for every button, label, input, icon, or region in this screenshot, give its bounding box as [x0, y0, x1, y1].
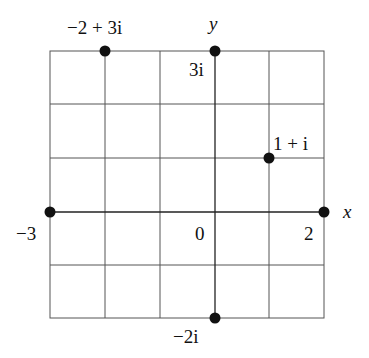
label-origin: 0 — [195, 223, 205, 244]
label-neg2-plus-3i: −2 + 3i — [67, 17, 122, 38]
label-2: 2 — [304, 223, 314, 244]
point-neg2-plus-3i — [100, 46, 111, 57]
complex-plane-diagram: y x −2 + 3i 3i 1 + i −3 0 2 −2i — [0, 0, 369, 358]
label-neg2i: −2i — [173, 326, 199, 347]
label-3i: 3i — [189, 59, 204, 80]
point-1-plus-i — [264, 153, 275, 164]
point-neg3 — [45, 207, 56, 218]
label-neg3: −3 — [16, 223, 36, 244]
grid — [50, 51, 324, 318]
point-3i — [210, 46, 221, 57]
label-1-plus-i: 1 + i — [273, 133, 308, 154]
points — [45, 46, 330, 324]
y-axis-label: y — [207, 13, 218, 34]
x-axis-label: x — [342, 201, 352, 222]
point-2 — [319, 207, 330, 218]
point-neg2i — [210, 313, 221, 324]
